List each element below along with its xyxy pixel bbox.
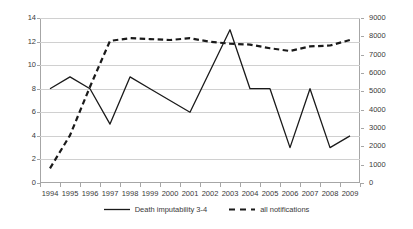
legend-dashed-line-icon bbox=[229, 205, 255, 214]
y-axis-right-tick-label: 5000 bbox=[369, 87, 411, 95]
y-axis-right-tick-mark bbox=[361, 36, 364, 37]
x-axis-tick-mark bbox=[200, 183, 201, 187]
y-axis-right-tick-label: 4000 bbox=[369, 106, 411, 114]
legend-label: all notifications bbox=[260, 205, 309, 214]
y-axis-right-tick-label: 8000 bbox=[369, 32, 411, 40]
x-axis-tick-mark bbox=[300, 183, 301, 187]
x-axis-tick-mark bbox=[240, 183, 241, 187]
y-axis-left-tick-label: 14 bbox=[2, 14, 36, 22]
y-axis-right-tick-label: 9000 bbox=[369, 14, 411, 22]
y-axis-right-tick-mark bbox=[361, 55, 364, 56]
legend-solid-line-icon bbox=[104, 205, 130, 214]
legend-item[interactable]: all notifications bbox=[229, 205, 309, 214]
y-axis-right-tick-label: 1000 bbox=[369, 161, 411, 169]
y-axis-right-tick-mark bbox=[361, 146, 364, 147]
y-axis-right-tick-mark bbox=[361, 183, 364, 184]
y-axis-right-tick-label: 2000 bbox=[369, 142, 411, 150]
y-axis-left-tick-label: 0 bbox=[2, 179, 36, 187]
x-axis-tick-mark bbox=[40, 183, 41, 187]
y-axis-right-tick-label: 3000 bbox=[369, 124, 411, 132]
y-axis-right-tick-mark bbox=[361, 18, 364, 19]
y-axis-right-tick-label: 0 bbox=[369, 179, 411, 187]
y-axis-left-tick-label: 12 bbox=[2, 38, 36, 46]
y-axis-right-tick-label: 6000 bbox=[369, 69, 411, 77]
line-chart: 02468101214 0100020003000400050006000700… bbox=[0, 0, 413, 229]
chart-legend: Death imputability 3-4all notifications bbox=[0, 205, 413, 214]
legend-item[interactable]: Death imputability 3-4 bbox=[104, 205, 208, 214]
y-axis-left-tick-label: 4 bbox=[2, 132, 36, 140]
y-axis-right-tick-mark bbox=[361, 110, 364, 111]
x-axis-tick-mark bbox=[360, 183, 361, 187]
y-axis-right-tick-mark bbox=[361, 165, 364, 166]
y-axis-left-tick-label: 2 bbox=[2, 155, 36, 163]
x-axis-tick-mark bbox=[60, 183, 61, 187]
y-axis-left-tick-label: 10 bbox=[2, 61, 36, 69]
x-axis-tick-mark bbox=[120, 183, 121, 187]
x-axis-tick-mark bbox=[180, 183, 181, 187]
y-axis-right-tick-mark bbox=[361, 91, 364, 92]
x-axis-tick-mark bbox=[140, 183, 141, 187]
x-axis-tick-mark bbox=[220, 183, 221, 187]
x-axis-tick-label: 2009 bbox=[335, 189, 365, 198]
x-axis-tick-mark bbox=[320, 183, 321, 187]
x-axis-tick-mark bbox=[80, 183, 81, 187]
y-axis-left-tick-label: 6 bbox=[2, 108, 36, 116]
y-axis-right-tick-mark bbox=[361, 128, 364, 129]
series-lines bbox=[40, 18, 360, 183]
y-axis-right-tick-label: 7000 bbox=[369, 51, 411, 59]
legend-label: Death imputability 3-4 bbox=[135, 205, 208, 214]
x-axis-tick-mark bbox=[260, 183, 261, 187]
x-axis-tick-mark bbox=[160, 183, 161, 187]
x-axis-tick-mark bbox=[100, 183, 101, 187]
y-axis-left-tick-label: 8 bbox=[2, 85, 36, 93]
x-axis-tick-mark bbox=[280, 183, 281, 187]
y-axis-right-tick-mark bbox=[361, 73, 364, 74]
x-axis-tick-mark bbox=[340, 183, 341, 187]
